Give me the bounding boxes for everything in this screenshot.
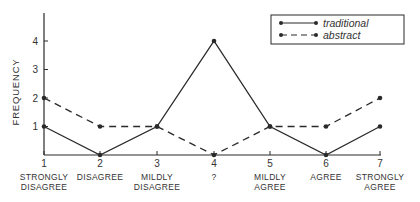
- data-point-abstract: [268, 124, 273, 129]
- legend-label-abstract: abstract: [323, 29, 361, 41]
- legend-marker-traditional: [314, 21, 318, 25]
- category-label: STRONGLY: [356, 172, 405, 182]
- data-point-traditional: [42, 124, 47, 129]
- legend: traditionalabstract: [271, 15, 404, 44]
- y-axis-label: FREQUENCY: [10, 59, 21, 126]
- legend-marker-abstract: [314, 33, 318, 37]
- category-label: AGREE: [310, 172, 341, 182]
- x-tick-label: 2: [97, 158, 103, 169]
- data-point-abstract: [42, 96, 47, 101]
- y-tick-label: 3: [32, 64, 38, 75]
- x-tick-label: 7: [377, 158, 383, 169]
- x-tick-label: 1: [41, 158, 47, 169]
- y-tick-label: 2: [32, 93, 38, 104]
- category-label: STRONGLY: [20, 172, 69, 182]
- data-point-traditional: [212, 39, 217, 44]
- data-point-abstract: [155, 124, 160, 129]
- data-point-abstract: [324, 124, 329, 129]
- x-tick-label: 4: [211, 158, 217, 169]
- data-point-traditional: [98, 153, 103, 158]
- x-tick-label: 5: [267, 158, 273, 169]
- y-axis-ticks: 1234: [32, 36, 48, 133]
- data-point-traditional: [324, 153, 329, 158]
- category-label: DISAGREE: [134, 182, 180, 192]
- category-label: MILDLY: [141, 172, 173, 182]
- x-tick-label: 3: [154, 158, 160, 169]
- series-line-abstract: [44, 98, 380, 155]
- legend-label-traditional: traditional: [323, 17, 369, 29]
- x-tick-label: 6: [323, 158, 329, 169]
- category-label: DISAGREE: [77, 172, 123, 182]
- category-label: MILDLY: [254, 172, 286, 182]
- category-label: AGREE: [254, 182, 285, 192]
- data-series: [42, 39, 383, 158]
- legend-marker-traditional: [279, 21, 283, 25]
- category-label: DISAGREE: [21, 182, 67, 192]
- legend-marker-abstract: [279, 33, 283, 37]
- category-label: AGREE: [364, 182, 395, 192]
- frequency-line-chart: 1234 FREQUENCY 1STRONGLYDISAGREE2DISAGRE…: [0, 0, 420, 202]
- data-point-abstract: [98, 124, 103, 129]
- data-point-traditional: [378, 124, 383, 129]
- y-tick-label: 1: [32, 121, 38, 132]
- data-point-abstract: [212, 153, 217, 158]
- category-label: ?: [211, 172, 216, 182]
- y-tick-label: 4: [32, 36, 38, 47]
- x-axis-ticks: 1STRONGLYDISAGREE2DISAGREE3MILDLYDISAGRE…: [20, 151, 405, 192]
- series-line-traditional: [44, 41, 380, 155]
- data-point-abstract: [378, 96, 383, 101]
